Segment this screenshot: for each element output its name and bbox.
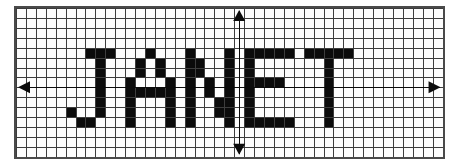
gridline-horizontal: [16, 157, 443, 158]
axes-layer: [16, 8, 443, 157]
x-axis-left-arrowhead: [18, 81, 30, 93]
x-axis-right-arrowhead: [429, 81, 441, 93]
y-axis-bottom-arrowhead: [233, 144, 245, 155]
axis-arrowheads: [16, 8, 443, 157]
y-axis-top-arrowhead: [233, 10, 245, 21]
gridline-vertical: [443, 8, 444, 157]
figure-canvas: [0, 0, 455, 164]
graph-paper-panel: [14, 6, 445, 159]
